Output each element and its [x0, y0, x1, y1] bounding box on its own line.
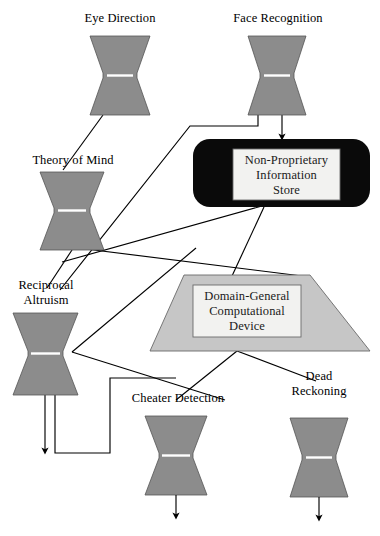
- diagram-graphics: Non-Proprietary Information Store Domain…: [0, 0, 380, 536]
- domain-general-computational-device[interactable]: Domain-General Computational Device: [150, 275, 370, 351]
- label-reciprocal-altruism-line-2: Altruism: [3, 293, 89, 308]
- module-eye-direction[interactable]: [90, 36, 150, 115]
- module-face-recognition[interactable]: [248, 36, 306, 115]
- module-cheater-detection[interactable]: [145, 416, 207, 516]
- module-reciprocal-altruism[interactable]: [13, 313, 78, 395]
- label-dead-reckoning-line-1: Dead: [283, 369, 355, 384]
- label-face-recognition: Face Recognition: [216, 11, 340, 26]
- module-dead-reckoning[interactable]: [290, 418, 348, 518]
- label-eye-direction: Eye Direction: [60, 11, 180, 26]
- edge-theory-of-mind-to-device: [78, 248, 310, 277]
- label-reciprocal-altruism-line-1: Reciprocal: [1, 278, 91, 293]
- label-theory-of-mind: Theory of Mind: [17, 153, 129, 168]
- label-dead-reckoning-line-2: Reckoning: [276, 384, 362, 399]
- device-label-line-3: Device: [229, 319, 265, 333]
- device-label-line-2: Computational: [209, 304, 285, 318]
- store-label-line-3: Store: [273, 183, 300, 197]
- store-label-line-1: Non-Proprietary: [245, 153, 329, 167]
- store-label-line-2: Information: [256, 168, 317, 182]
- diagram-canvas: Non-Proprietary Information Store Domain…: [0, 0, 380, 536]
- non-proprietary-information-store[interactable]: Non-Proprietary Information Store: [193, 139, 370, 207]
- device-label-line-1: Domain-General: [204, 289, 290, 303]
- edge-store-to-device: [232, 207, 264, 276]
- label-cheater-detection: Cheater Detection: [114, 391, 242, 406]
- module-theory-of-mind[interactable]: [40, 172, 104, 250]
